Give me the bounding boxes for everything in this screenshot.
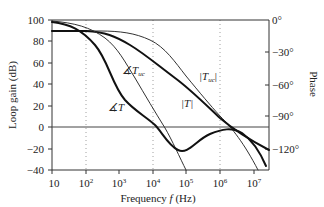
svg-text:60: 60 [33, 57, 45, 69]
svg-text:−90°: −90° [272, 110, 294, 122]
curve-tuc-phase [52, 21, 186, 170]
grid-lines [86, 20, 220, 170]
svg-text:−120°: −120° [272, 143, 299, 155]
annotation-tuc-phase: ∡Tuc [122, 64, 146, 78]
annotation-t-magnitude: |T| [181, 97, 193, 109]
svg-text:80: 80 [33, 35, 45, 47]
y2-axis-label: Phase [308, 71, 320, 97]
y-tick-labels: 100 80 60 40 20 0 −20 −40 [27, 14, 45, 176]
svg-text:0°: 0° [272, 14, 282, 26]
svg-text:103: 103 [112, 177, 127, 189]
curve-tuc-magnitude [52, 31, 258, 170]
x-axis-ticks [52, 170, 254, 174]
annotation-tuc-magnitude: |Tuc| [199, 70, 217, 84]
bode-plot: 100 80 60 40 20 0 −20 −40 0° −30° −60° −… [0, 0, 324, 207]
svg-text:0: 0 [39, 121, 45, 133]
svg-text:−20: −20 [27, 143, 45, 155]
curve-t-phase [52, 22, 266, 166]
y2-tick-labels: 0° −30° −60° −90° −120° [272, 14, 299, 155]
y-axis-ticks [48, 20, 52, 170]
svg-text:−40: −40 [27, 164, 45, 176]
svg-text:100: 100 [28, 14, 45, 26]
svg-text:40: 40 [33, 78, 45, 90]
annotation-t-phase: ∡T [108, 101, 125, 113]
svg-text:107: 107 [247, 177, 262, 189]
y2-axis-ticks [265, 52, 269, 149]
x-axis-label: Frequency f (Hz) [120, 192, 195, 205]
svg-text:106: 106 [213, 177, 228, 189]
svg-text:104: 104 [146, 177, 161, 189]
x-tick-labels: 10 102 103 104 105 106 107 [49, 177, 262, 189]
svg-text:20: 20 [33, 100, 45, 112]
svg-text:−30°: −30° [272, 46, 294, 58]
svg-text:105: 105 [179, 177, 194, 189]
y-axis-label: Loop gain (dB) [6, 61, 19, 129]
svg-text:10: 10 [49, 177, 61, 189]
svg-text:−60°: −60° [272, 79, 294, 91]
svg-text:102: 102 [79, 177, 94, 189]
axes [52, 20, 269, 170]
